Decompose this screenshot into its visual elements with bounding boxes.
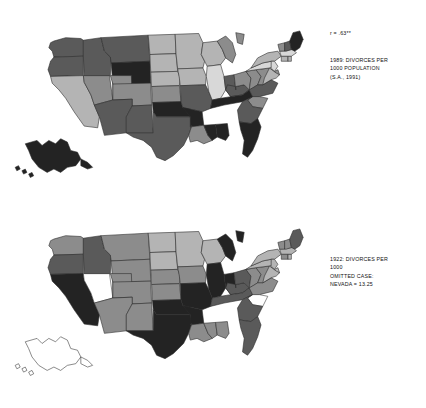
- state-al: [216, 124, 229, 141]
- state-sd: [150, 54, 178, 73]
- caption-line: 1000 POPULATION: [330, 64, 424, 73]
- state-nd: [148, 232, 176, 252]
- caption-1989: 1989: DIVORCES PER1000 POPULATION(S.A., …: [330, 56, 424, 82]
- us-map-svg-1989: [0, 2, 320, 198]
- state-ak: [25, 139, 92, 173]
- state-hi: [15, 166, 34, 178]
- state-ri: [288, 56, 291, 61]
- state-me: [290, 229, 303, 249]
- state-mo: [180, 283, 212, 310]
- state-ct: [281, 56, 288, 61]
- caption-line: (S.A., 1991): [330, 73, 424, 82]
- caption-line: 1989: DIVORCES PER: [330, 56, 424, 65]
- annotation-1922: 1922: DIVORCES PER1000OMITTED CASE:NEVAD…: [330, 246, 424, 297]
- us-map-svg-1922: [0, 200, 320, 396]
- state-ri: [288, 254, 291, 259]
- state-al: [216, 322, 229, 339]
- choropleth-map-1922: [0, 200, 320, 396]
- choropleth-map-1989: [0, 2, 320, 198]
- caption-line: 1922: DIVORCES PER: [330, 255, 424, 264]
- state-or: [48, 56, 83, 76]
- state-nm: [126, 105, 153, 133]
- caption-line: NEVADA = 13.25: [330, 280, 424, 289]
- state-vt: [278, 241, 285, 249]
- state-ks: [152, 284, 181, 301]
- caption-line: 1000: [330, 263, 424, 272]
- state-ne: [151, 269, 180, 284]
- caption-1922: 1922: DIVORCES PER1000OMITTED CASE:NEVAD…: [330, 255, 424, 289]
- state-wa: [49, 236, 84, 255]
- state-vt: [278, 43, 285, 51]
- state-nm: [126, 303, 153, 331]
- state-sd: [150, 252, 178, 271]
- state-fl: [239, 119, 261, 158]
- state-hi: [15, 364, 34, 376]
- state-me: [290, 31, 303, 51]
- state-ia: [178, 68, 207, 86]
- state-fl: [239, 317, 261, 356]
- state-ia: [178, 266, 207, 284]
- correlation-label: r = .63**: [330, 29, 424, 38]
- state-mo: [180, 85, 212, 112]
- state-wa: [49, 38, 84, 57]
- divorce-rate-figure: r = .63** 1989: DIVORCES PER1000 POPULAT…: [0, 0, 426, 408]
- caption-line: OMITTED CASE:: [330, 272, 424, 281]
- state-ne: [151, 71, 180, 86]
- state-mn: [175, 231, 204, 266]
- state-ct: [281, 254, 288, 259]
- state-ks: [152, 86, 181, 103]
- state-mn: [175, 33, 204, 68]
- state-or: [48, 254, 83, 274]
- state-ak: [25, 337, 92, 371]
- annotation-1989: r = .63** 1989: DIVORCES PER1000 POPULAT…: [330, 20, 424, 90]
- state-nd: [148, 34, 176, 54]
